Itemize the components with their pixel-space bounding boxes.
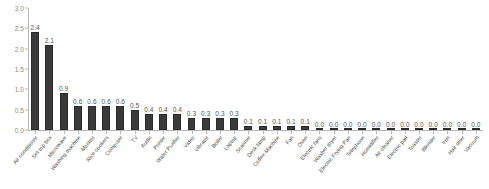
bar-value-label: 0.0 bbox=[343, 121, 352, 128]
x-axis-label-slot: Iron bbox=[440, 134, 454, 189]
x-axis-label-slot: Computer bbox=[113, 134, 127, 189]
bar-slot: 0.6 bbox=[85, 8, 99, 130]
bar-slot: 0.0 bbox=[455, 8, 469, 130]
bar-value-label: 0.3 bbox=[230, 110, 239, 117]
bar bbox=[301, 126, 309, 130]
bar bbox=[472, 128, 480, 130]
x-axis-label-slot: Water Purifier bbox=[170, 134, 184, 189]
bar-slot: 0.1 bbox=[270, 8, 284, 130]
bar-value-label: 0.6 bbox=[102, 98, 111, 105]
bar-slot: 0.0 bbox=[383, 8, 397, 130]
bar-value-label: 0.6 bbox=[87, 98, 96, 105]
x-axis-label-slot: Air cleaner bbox=[383, 134, 397, 189]
bar-value-label: 0.3 bbox=[187, 110, 196, 117]
bar-slot: 0.1 bbox=[256, 8, 270, 130]
bar bbox=[401, 128, 409, 130]
bar bbox=[443, 128, 451, 130]
x-axis-category-label: Fan bbox=[285, 135, 295, 146]
bar-slot: 0.0 bbox=[327, 8, 341, 130]
bar-slot: 0.3 bbox=[184, 8, 198, 130]
bar bbox=[173, 114, 181, 130]
bar-slot: 0.9 bbox=[56, 8, 70, 130]
bar bbox=[244, 126, 252, 130]
bar-value-label: 0.0 bbox=[315, 121, 324, 128]
bar bbox=[202, 118, 210, 130]
bar bbox=[45, 45, 53, 130]
bar bbox=[415, 128, 423, 130]
bar bbox=[287, 126, 295, 130]
bar-value-label: 0.0 bbox=[471, 121, 480, 128]
bar-value-label: 0.4 bbox=[158, 106, 167, 113]
bar-value-label: 0.1 bbox=[244, 118, 253, 125]
bar-value-label: 2.4 bbox=[30, 24, 39, 31]
bar-value-label: 0.3 bbox=[215, 110, 224, 117]
bar-value-label: 0.1 bbox=[301, 118, 310, 125]
bar-value-label: 0.4 bbox=[173, 106, 182, 113]
bar-slot: 0.0 bbox=[426, 8, 440, 130]
bar-slot: 0.3 bbox=[199, 8, 213, 130]
bar-value-label: 0.5 bbox=[130, 102, 139, 109]
bar-slot: 0.0 bbox=[341, 8, 355, 130]
x-axis-label-slot: Vibrator bbox=[199, 134, 213, 189]
x-axis-label-slot: Electric pad bbox=[398, 134, 412, 189]
plot-area: 0.00.51.01.52.02.53.0 2.42.10.90.60.60.6… bbox=[28, 8, 483, 130]
bar-value-label: 0.0 bbox=[443, 121, 452, 128]
bar-slot: 0.6 bbox=[71, 8, 85, 130]
x-axis-category-label: TV bbox=[130, 135, 139, 144]
bar bbox=[31, 32, 39, 130]
bar-series: 2.42.10.90.60.60.60.60.50.40.40.40.30.30… bbox=[28, 8, 483, 130]
bar-slot: 0.0 bbox=[312, 8, 326, 130]
bar-slot: 0.0 bbox=[440, 8, 454, 130]
bar-value-label: 0.1 bbox=[258, 118, 267, 125]
bar bbox=[159, 114, 167, 130]
x-axis-label-slot: Humidifier bbox=[369, 134, 383, 189]
bar bbox=[316, 128, 324, 130]
x-axis-category-label: Audio bbox=[140, 135, 153, 149]
x-axis-label-slot: Blender bbox=[426, 134, 440, 189]
x-axis-category-label: Iron bbox=[441, 135, 451, 146]
bar bbox=[188, 118, 196, 130]
bar-slot: 0.0 bbox=[355, 8, 369, 130]
bar-slot: 0.0 bbox=[412, 8, 426, 130]
bar bbox=[131, 110, 139, 130]
bar-value-label: 0.9 bbox=[59, 85, 68, 92]
x-axis-label-slot: Hair drier bbox=[455, 134, 469, 189]
bar bbox=[429, 128, 437, 130]
bar-value-label: 0.6 bbox=[116, 98, 125, 105]
bar-slot: 0.1 bbox=[284, 8, 298, 130]
bar-slot: 0.6 bbox=[99, 8, 113, 130]
bar bbox=[102, 106, 110, 130]
bar bbox=[358, 128, 366, 130]
x-axis-label-slot: Vacuum bbox=[469, 134, 483, 189]
bar-value-label: 0.4 bbox=[144, 106, 153, 113]
bar-value-label: 0.6 bbox=[73, 98, 82, 105]
bar-slot: 0.3 bbox=[213, 8, 227, 130]
bar-slot: 2.1 bbox=[42, 8, 56, 130]
bar bbox=[273, 126, 281, 130]
bar-value-label: 0.0 bbox=[357, 121, 366, 128]
bar-value-label: 0.0 bbox=[429, 121, 438, 128]
bar bbox=[387, 128, 395, 130]
bar bbox=[330, 128, 338, 130]
bar-value-label: 0.1 bbox=[286, 118, 295, 125]
bar bbox=[88, 106, 96, 130]
bar-slot: 0.4 bbox=[170, 8, 184, 130]
bar bbox=[60, 93, 68, 130]
bar-value-label: 0.0 bbox=[329, 121, 338, 128]
bar-slot: 0.6 bbox=[113, 8, 127, 130]
bar-slot: 0.4 bbox=[142, 8, 156, 130]
bar-value-label: 0.0 bbox=[414, 121, 423, 128]
bar-slot: 0.1 bbox=[241, 8, 255, 130]
bar-value-label: 2.1 bbox=[45, 37, 54, 44]
bar bbox=[344, 128, 352, 130]
bar-slot: 0.4 bbox=[156, 8, 170, 130]
bar bbox=[145, 114, 153, 130]
bar-slot: 0.0 bbox=[398, 8, 412, 130]
bar-slot: 0.0 bbox=[369, 8, 383, 130]
bar-value-label: 0.0 bbox=[372, 121, 381, 128]
bar-value-label: 0.3 bbox=[201, 110, 210, 117]
bar bbox=[74, 106, 82, 130]
bar-value-label: 0.0 bbox=[457, 121, 466, 128]
x-axis-label-slot: Video bbox=[184, 134, 198, 189]
x-axis-labels: Air conditionerSet top boxMicrowaveWashi… bbox=[28, 134, 483, 189]
